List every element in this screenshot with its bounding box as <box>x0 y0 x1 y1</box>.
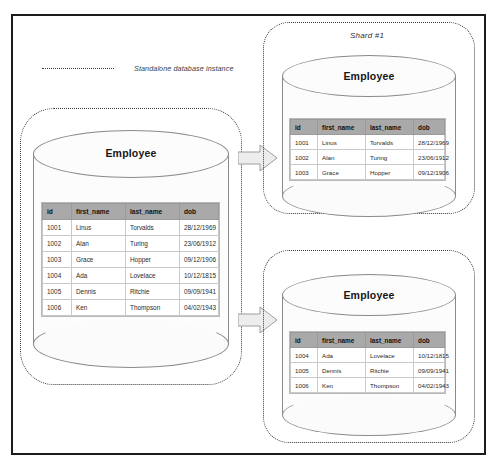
database-title-main: Employee <box>33 147 229 159</box>
cell-last-name: Hopper <box>366 165 414 180</box>
column-header-id: id <box>291 120 318 135</box>
cell-id: 1001 <box>291 135 318 150</box>
cell-first-name: Grace <box>72 252 126 268</box>
cell-last-name: Torvalds <box>366 135 414 150</box>
cell-dob: 09/12/1906 <box>180 252 219 268</box>
cell-dob: 10/12/1815 <box>414 348 445 363</box>
cell-first-name: Dennis <box>72 284 126 300</box>
cell-first-name: Ken <box>72 300 126 316</box>
column-header-dob: dob <box>414 333 445 348</box>
cell-id: 1001 <box>43 220 72 236</box>
employee-table-shard-2: id first_name last_name dob 1004 Ada Lov… <box>290 332 445 393</box>
table-row: 1001 Linus Torvalds 28/12/1969 <box>43 220 219 236</box>
table-row: 1003 Grace Hopper 09/12/1906 <box>43 252 219 268</box>
cell-id: 1006 <box>43 300 72 316</box>
cell-id: 1003 <box>43 252 72 268</box>
table-row: 1001 Linus Torvalds 28/12/1969 <box>291 135 445 150</box>
shard-1-caption: Shard #1 <box>350 31 384 40</box>
cell-last-name: Hopper <box>126 252 180 268</box>
column-header-last-name: last_name <box>366 333 414 348</box>
cell-first-name: Alan <box>318 150 366 165</box>
legend: Standalone database instance <box>42 64 234 73</box>
cell-last-name: Thompson <box>366 378 414 393</box>
legend-label: Standalone database instance <box>134 64 234 73</box>
cell-first-name: Alan <box>72 236 126 252</box>
cell-dob: 04/02/1943 <box>414 378 445 393</box>
column-header-dob: dob <box>414 120 445 135</box>
table-header-row: id first_name last_name dob <box>43 204 219 220</box>
cell-first-name: Linus <box>72 220 126 236</box>
table-row: 1004 Ada Lovelace 10/12/1815 <box>291 348 445 363</box>
table-row: 1006 Ken Thompson 04/02/1943 <box>43 300 219 316</box>
table-row: 1003 Grace Hopper 09/12/1906 <box>291 165 445 180</box>
table-row: 1004 Ada Lovelace 10/12/1815 <box>43 268 219 284</box>
cell-dob: 23/06/1912 <box>180 236 219 252</box>
table-row: 1002 Alan Turing 23/06/1912 <box>291 150 445 165</box>
column-header-first-name: first_name <box>72 204 126 220</box>
cell-last-name: Thompson <box>126 300 180 316</box>
column-header-last-name: last_name <box>366 120 414 135</box>
cell-id: 1003 <box>291 165 318 180</box>
column-header-last-name: last_name <box>126 204 180 220</box>
cell-id: 1004 <box>43 268 72 284</box>
cell-last-name: Lovelace <box>126 268 180 284</box>
column-header-id: id <box>291 333 318 348</box>
employee-table-main: id first_name last_name dob 1001 Linus T… <box>42 203 219 316</box>
cylinder-bottom-ellipse <box>282 394 456 436</box>
cell-first-name: Ada <box>318 348 366 363</box>
cell-id: 1004 <box>291 348 318 363</box>
column-header-dob: dob <box>180 204 219 220</box>
cell-id: 1002 <box>43 236 72 252</box>
cell-dob: 09/09/1941 <box>414 363 445 378</box>
employee-table-shard-1: id first_name last_name dob 1001 Linus T… <box>290 119 445 180</box>
diagram-canvas: Standalone database instance Employee id… <box>0 0 496 466</box>
cell-dob: 04/02/1943 <box>180 300 219 316</box>
database-title-shard-2: Employee <box>282 289 456 301</box>
cell-id: 1005 <box>291 363 318 378</box>
cylinder-bottom-ellipse <box>282 175 456 217</box>
cell-dob: 28/12/1969 <box>180 220 219 236</box>
cylinder-bottom-ellipse <box>33 320 229 368</box>
cell-last-name: Turing <box>366 150 414 165</box>
cell-last-name: Ritchie <box>366 363 414 378</box>
cell-id: 1006 <box>291 378 318 393</box>
column-header-first-name: first_name <box>318 120 366 135</box>
cell-first-name: Grace <box>318 165 366 180</box>
dotted-line-icon <box>42 68 114 69</box>
table-row: 1005 Dennis Ritchie 09/09/1941 <box>43 284 219 300</box>
cell-last-name: Ritchie <box>126 284 180 300</box>
cell-last-name: Turing <box>126 236 180 252</box>
cell-first-name: Dennis <box>318 363 366 378</box>
cell-dob: 10/12/1815 <box>180 268 219 284</box>
cell-last-name: Torvalds <box>126 220 180 236</box>
table-row: 1006 Ken Thompson 04/02/1943 <box>291 378 445 393</box>
cell-dob: 09/12/1906 <box>414 165 445 180</box>
table-row: 1002 Alan Turing 23/06/1912 <box>43 236 219 252</box>
cell-last-name: Lovelace <box>366 348 414 363</box>
cell-dob: 09/09/1941 <box>180 284 219 300</box>
cell-first-name: Linus <box>318 135 366 150</box>
column-header-id: id <box>43 204 72 220</box>
cell-id: 1005 <box>43 284 72 300</box>
cell-first-name: Ken <box>318 378 366 393</box>
table-header-row: id first_name last_name dob <box>291 120 445 135</box>
table-row: 1005 Dennis Ritchie 09/09/1941 <box>291 363 445 378</box>
cell-dob: 28/12/1969 <box>414 135 445 150</box>
column-header-first-name: first_name <box>318 333 366 348</box>
table-header-row: id first_name last_name dob <box>291 333 445 348</box>
cell-first-name: Ada <box>72 268 126 284</box>
database-title-shard-1: Employee <box>282 70 456 82</box>
cell-id: 1002 <box>291 150 318 165</box>
cell-dob: 23/06/1912 <box>414 150 445 165</box>
